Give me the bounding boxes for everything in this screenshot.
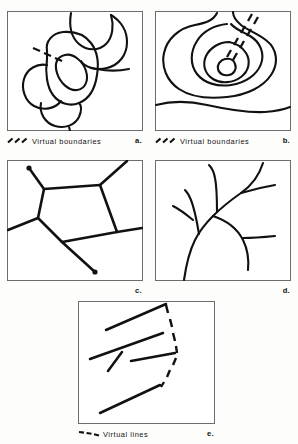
panel-e-legend-label: Virtual lines [103, 430, 148, 439]
virtual-boundary-symbol-icon [7, 136, 29, 145]
panel-b-artwork [155, 11, 291, 131]
panel-d-artwork [155, 160, 291, 281]
panel-b: Virtual boundaries b. [155, 11, 291, 131]
panel-c-letter: c. [135, 286, 142, 295]
panel-d-letter: d. [283, 286, 290, 295]
panel-b-legend-label: Virtual boundaries [180, 137, 249, 146]
panel-c: c. [7, 160, 143, 281]
panel-b-letter: b. [283, 136, 290, 145]
panel-e-legend: Virtual lines [78, 429, 148, 438]
panel-e-virtual-line [161, 305, 177, 387]
virtual-boundary-symbol-icon [155, 136, 177, 145]
figure-plate: Virtual boundaries a. [0, 0, 298, 444]
panel-b-legend: Virtual boundaries [155, 136, 249, 145]
panel-c-nodes [26, 165, 97, 274]
panel-c-artwork [7, 160, 143, 281]
panel-e: Virtual lines e. [78, 301, 215, 424]
panel-e-letter: e. [207, 429, 214, 438]
panel-e-artwork [78, 301, 215, 424]
panel-a-artwork [7, 11, 143, 131]
panel-a-legend-label: Virtual boundaries [32, 137, 101, 146]
panel-a: Virtual boundaries a. [7, 11, 143, 131]
panel-a-letter: a. [135, 136, 142, 145]
virtual-line-symbol-icon [78, 429, 100, 438]
panel-d: d. [155, 160, 291, 281]
panel-a-legend: Virtual boundaries [7, 136, 101, 145]
